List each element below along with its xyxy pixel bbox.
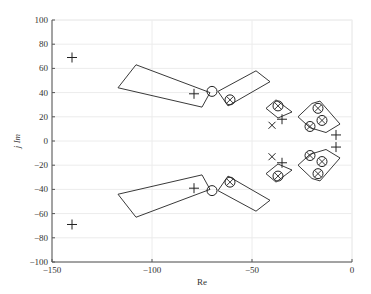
y-tick-label: 0	[44, 136, 49, 146]
y-axis-label: j Im	[12, 133, 22, 149]
circled-cross-marker	[305, 121, 315, 131]
region-3-lower	[266, 164, 292, 182]
y-tick-label: −60	[34, 209, 49, 219]
y-tick-label: −80	[34, 233, 49, 243]
grid-lines	[52, 20, 352, 262]
x-tick-label: −100	[143, 265, 162, 275]
y-tick-label: 80	[39, 39, 49, 49]
pole-zero-chart: −150−100−500 100806040200−20−40−60−80−10…	[0, 0, 371, 294]
circled-cross-marker	[313, 169, 323, 179]
y-tick-label: 20	[39, 112, 49, 122]
circle-marker	[207, 86, 217, 96]
plus-marker	[331, 130, 341, 140]
y-tick-label: 60	[39, 63, 49, 73]
region-2-lower	[218, 176, 270, 211]
region-1-lower	[118, 175, 210, 217]
circle-marker	[207, 186, 217, 196]
x-axis-ticks: −150−100−500	[43, 259, 355, 275]
plus-marker	[331, 142, 341, 152]
y-tick-label: −20	[34, 160, 49, 170]
plus-marker	[189, 183, 199, 193]
circled-cross-marker	[305, 151, 315, 161]
circled-cross-marker	[225, 177, 235, 187]
region-3-upper	[266, 100, 292, 118]
circled-cross-marker	[273, 171, 283, 181]
plus-marker	[277, 158, 287, 168]
circled-cross-marker	[273, 101, 283, 111]
y-tick-label: 100	[35, 15, 49, 25]
plus-marker	[67, 53, 77, 63]
x-axis-label: Re	[197, 277, 207, 287]
region-2-upper	[218, 71, 270, 106]
x-marker	[269, 122, 276, 129]
x-tick-label: 0	[350, 265, 355, 275]
x-marker	[269, 153, 276, 160]
region-1-upper	[118, 65, 210, 107]
plus-marker	[189, 89, 199, 99]
y-tick-label: 40	[39, 88, 49, 98]
plus-marker	[277, 114, 287, 124]
circled-cross-marker	[225, 95, 235, 105]
y-axis-ticks: 100806040200−20−40−60−80−100	[29, 15, 55, 267]
y-tick-label: −40	[34, 184, 49, 194]
plus-marker	[67, 219, 77, 229]
circled-cross-marker	[313, 103, 323, 113]
x-tick-label: −50	[245, 265, 260, 275]
y-tick-label: −100	[29, 257, 48, 267]
